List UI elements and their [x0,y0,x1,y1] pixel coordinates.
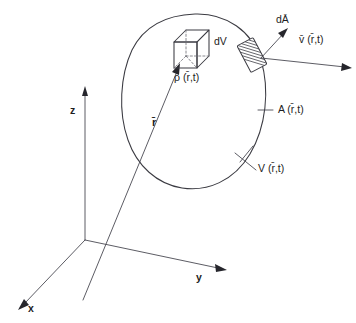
cube-front-face [174,42,197,68]
velocity-vector-line [261,58,345,67]
cube-top-face [174,30,209,42]
density-label: ρ (r̄,t) [174,72,199,83]
area-element-label: dĀ [276,14,289,25]
cube-hidden-diagonal [186,56,197,68]
z-axis-label: z [70,105,75,116]
velocity-vector-arrowhead-icon [341,63,352,71]
cube-right-face [197,30,209,68]
diagram-canvas [0,0,356,323]
position-vector-line [83,69,178,300]
y-axis-arrowhead-icon [215,264,227,272]
y-axis-label: y [196,272,202,283]
x-axis-line [25,240,85,303]
volume-label: V (r̄,t) [258,163,284,174]
area-element-normal-vector-line [261,33,284,58]
z-axis-arrowhead-icon [82,86,88,96]
velocity-label: v̄ (r̄,t) [299,34,324,45]
control-volume-boundary-path [122,14,266,189]
x-axis-label: x [28,303,34,314]
y-axis-line [85,240,218,268]
position-vector-label: r̄ [152,117,156,128]
volume-element-label: dV [214,36,227,47]
physics-diagram-figure: dV ρ (r̄,t) dĀ v̄ (r̄,t) A (r̄,t) V (r̄… [0,0,356,323]
area-element-normal-arrowhead-icon [278,28,288,38]
surface-label: A (r̄,t) [278,104,304,115]
